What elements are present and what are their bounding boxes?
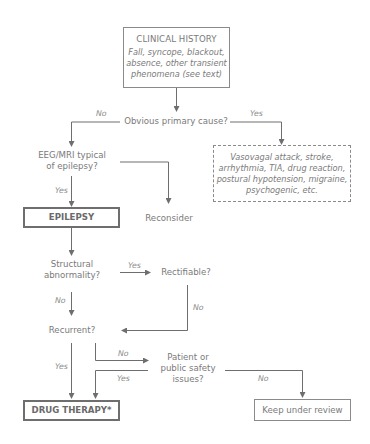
structural-abnormality-question: Structural abnormality? xyxy=(38,259,106,281)
eeg-mri-question: EEG/MRI typical of epilepsy? xyxy=(30,150,114,172)
clinical-history-title: CLINICAL HISTORY xyxy=(124,34,229,44)
edge-label-safety-yes: Yes xyxy=(117,374,130,383)
safety-issues-question: Patient or public safety issues? xyxy=(152,352,224,385)
edge-label-obvious-no: No xyxy=(96,109,107,118)
edge-label-eeg-yes: Yes xyxy=(55,186,68,195)
alternative-causes-line: postural hypotension, migraine, xyxy=(214,174,350,185)
keep-under-review-label: Keep under review xyxy=(262,405,342,415)
eeg-mri-line: of epilepsy? xyxy=(30,161,114,172)
drug-therapy-label: DRUG THERAPY* xyxy=(32,405,112,415)
obvious-cause-question: Obvious primary cause? xyxy=(122,116,230,127)
reconsider-label: Reconsider xyxy=(138,213,200,224)
rectifiable-question: Rectifiable? xyxy=(152,267,220,278)
eeg-mri-line: EEG/MRI typical xyxy=(30,150,114,161)
epilepsy-box: EPILEPSY xyxy=(23,207,120,228)
safety-line: issues? xyxy=(152,374,224,385)
alternative-causes-box: Vasovagal attack, stroke, arrhythmia, TI… xyxy=(213,145,351,202)
alternative-causes-line: arrhythmia, TIA, drug reaction, xyxy=(214,163,350,174)
edge-label-obvious-yes: Yes xyxy=(250,109,263,118)
structural-line: Structural xyxy=(38,259,106,270)
alternative-causes-line: Vasovagal attack, stroke, xyxy=(214,152,350,163)
alternative-causes-line: psychogenic, etc. xyxy=(214,185,350,196)
edge-label-structural-no: No xyxy=(55,296,66,305)
edge-label-structural-yes: Yes xyxy=(128,261,141,270)
keep-under-review-box: Keep under review xyxy=(254,399,351,421)
clinical-history-line: Fall, syncope, blackout, xyxy=(124,47,229,58)
clinical-history-line: phenomena (see text) xyxy=(124,69,229,80)
epilepsy-label: EPILEPSY xyxy=(49,212,94,222)
edge-label-recurrent-no: No xyxy=(118,349,129,358)
clinical-history-line: absence, other transient xyxy=(124,58,229,69)
edge-label-rectifiable-no: No xyxy=(193,303,204,312)
clinical-history-box: CLINICAL HISTORY Fall, syncope, blackout… xyxy=(123,27,230,88)
edge-label-safety-no: No xyxy=(258,374,269,383)
safety-line: public safety xyxy=(152,363,224,374)
safety-line: Patient or xyxy=(152,352,224,363)
structural-line: abnormality? xyxy=(38,270,106,281)
drug-therapy-box: DRUG THERAPY* xyxy=(23,400,120,421)
edge-label-recurrent-yes: Yes xyxy=(55,362,68,371)
recurrent-question: Recurrent? xyxy=(40,325,104,336)
